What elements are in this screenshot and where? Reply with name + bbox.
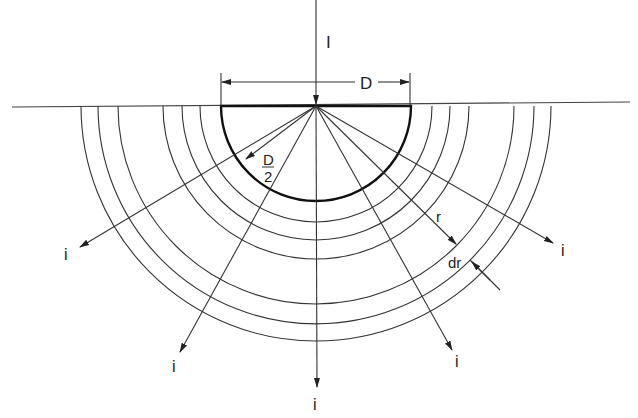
label-current-in: I (326, 33, 331, 52)
hemisphere-electrode-diagram: I D D 2 r dr i i i i i (0, 0, 638, 418)
label-current-out-lower-left: i (172, 358, 176, 375)
label-radius-den: 2 (264, 168, 272, 185)
label-shell-thickness: dr (448, 254, 461, 271)
label-current-out-lower-right: i (455, 353, 459, 370)
label-current-out-left: i (64, 246, 68, 263)
label-shell-radius: r (436, 208, 441, 225)
label-diameter: D (360, 74, 372, 93)
diagram-canvas: I D D 2 r dr i i i i i (0, 0, 638, 418)
label-current-out-right: i (561, 242, 565, 259)
label-radius-num: D (263, 151, 274, 168)
label-current-out-bottom: i (313, 396, 317, 413)
